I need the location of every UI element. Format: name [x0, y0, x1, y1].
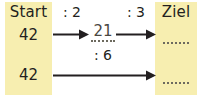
ziel-answer-blank-row-2[interactable] [163, 80, 189, 84]
middle-answer-value: 21 [89, 24, 117, 39]
middle-answer-rule [91, 40, 115, 42]
division-chain-worksheet: Start Ziel 42 42 : 2 : 3 : 6 21 [0, 0, 207, 95]
start-column-header: Start [5, 3, 52, 21]
arrow-row-2-step-1-icon [53, 70, 156, 81]
operation-label-row-1-step-2: : 3 [119, 4, 153, 20]
arrow-row-1-step-2-icon [116, 29, 156, 40]
operation-label-row-1-step-1: : 2 [55, 4, 89, 20]
arrow-row-1-step-1-icon [53, 29, 89, 40]
operation-label-row-2-step-1: : 6 [86, 47, 120, 63]
middle-answer-row-1[interactable]: 21 [89, 24, 117, 42]
start-value-row-2: 42 [5, 66, 52, 84]
ziel-answer-blank-row-1[interactable] [163, 40, 189, 44]
start-value-row-1: 42 [5, 26, 52, 44]
ziel-column-header: Ziel [155, 3, 197, 21]
